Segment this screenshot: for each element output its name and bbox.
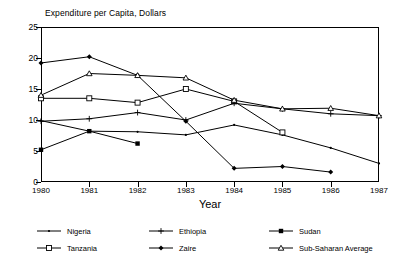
x-tick-label-1980: 1980 bbox=[21, 186, 61, 195]
legend-label-tanzania: Tanzania bbox=[67, 244, 97, 253]
chart-title: Expenditure per Capita, Dollars bbox=[45, 8, 166, 18]
plot-area bbox=[41, 27, 379, 182]
x-tick-label-1985: 1985 bbox=[262, 186, 302, 195]
legend-label-ethiopia: Ethiopia bbox=[179, 227, 206, 236]
y-tick-label-5: 5 bbox=[4, 146, 38, 156]
x-tick-mark-1986 bbox=[331, 182, 332, 187]
x-tick-label-1987: 1987 bbox=[359, 186, 399, 195]
legend-label-sudan: Sudan bbox=[299, 227, 321, 236]
data-point-filled-diamond bbox=[159, 246, 164, 251]
legend-marker-plus-icon bbox=[148, 225, 174, 237]
chart-legend: NigeriaTanzaniaEthiopiaZaireSudanSub-Sah… bbox=[0, 222, 420, 262]
y-tick-label-20: 20 bbox=[4, 53, 38, 63]
legend-marker-open-triangle-icon bbox=[268, 242, 294, 254]
data-point-dot bbox=[48, 230, 50, 232]
y-tick-label-25: 25 bbox=[4, 22, 38, 32]
legend-item-ethiopia[interactable]: Ethiopia bbox=[148, 224, 206, 238]
x-tick-mark-1981 bbox=[89, 182, 90, 187]
chart-figure: Expenditure per Capita, Dollars 05101520… bbox=[0, 0, 420, 268]
legend-item-tanzania[interactable]: Tanzania bbox=[36, 241, 97, 255]
y-tick-label-15: 15 bbox=[4, 84, 38, 94]
legend-marker-filled-square-icon bbox=[268, 225, 294, 237]
y-tick-mark-25 bbox=[36, 27, 41, 28]
legend-marker-filled-diamond-icon bbox=[148, 242, 174, 254]
x-tick-mark-1983 bbox=[186, 182, 187, 187]
x-tick-label-1982: 1982 bbox=[118, 186, 158, 195]
legend-item-sub-saharan-average[interactable]: Sub-Saharan Average bbox=[268, 241, 373, 255]
legend-item-nigeria[interactable]: Nigeria bbox=[36, 224, 91, 238]
legend-marker-open-square-icon bbox=[36, 242, 62, 254]
legend-label-nigeria: Nigeria bbox=[67, 227, 91, 236]
x-tick-label-1986: 1986 bbox=[311, 186, 351, 195]
y-tick-mark-0 bbox=[36, 182, 41, 183]
y-tick-label-10: 10 bbox=[4, 115, 38, 125]
y-tick-mark-20 bbox=[36, 58, 41, 59]
data-point-filled-square bbox=[279, 229, 283, 233]
y-tick-mark-5 bbox=[36, 151, 41, 152]
y-tick-mark-10 bbox=[36, 120, 41, 121]
x-tick-mark-1984 bbox=[234, 182, 235, 187]
x-tick-label-1981: 1981 bbox=[69, 186, 109, 195]
x-tick-mark-1985 bbox=[282, 182, 283, 187]
data-point-open-square bbox=[47, 246, 52, 251]
legend-item-zaire[interactable]: Zaire bbox=[148, 241, 196, 255]
data-point-plus bbox=[158, 228, 164, 234]
x-tick-label-1983: 1983 bbox=[166, 186, 206, 195]
legend-marker-dot-icon bbox=[36, 225, 62, 237]
legend-label-zaire: Zaire bbox=[179, 244, 196, 253]
y-tick-mark-15 bbox=[36, 89, 41, 90]
x-axis-label: Year bbox=[0, 198, 420, 210]
x-tick-label-1984: 1984 bbox=[214, 186, 254, 195]
legend-item-sudan[interactable]: Sudan bbox=[268, 224, 321, 238]
x-tick-mark-1982 bbox=[138, 182, 139, 187]
legend-label-sub-saharan-average: Sub-Saharan Average bbox=[299, 244, 373, 253]
